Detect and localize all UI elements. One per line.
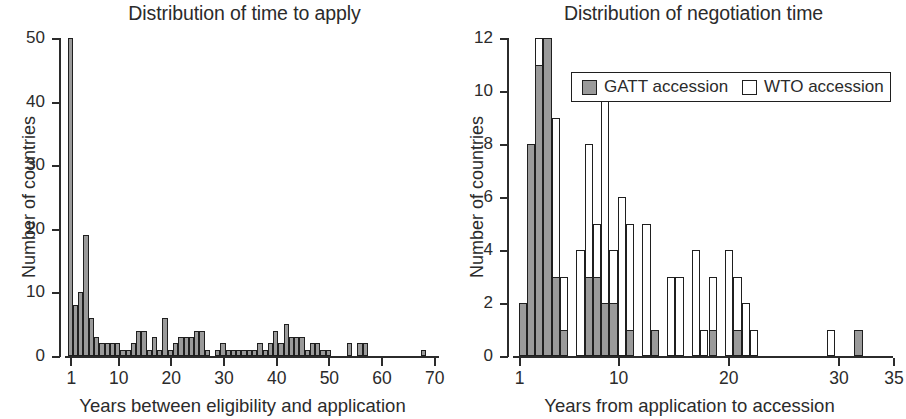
- x-axis-tick: [223, 358, 225, 366]
- histogram-bar: [725, 250, 733, 356]
- histogram-bar: [609, 303, 617, 356]
- y-axis-tick: [52, 165, 60, 167]
- legend-swatch-wto-icon: [742, 80, 757, 95]
- y-axis-tick-label: 40: [11, 92, 45, 112]
- x-axis-tick: [70, 358, 72, 366]
- x-axis-tick-label: 10: [98, 368, 140, 389]
- y-axis-line: [59, 38, 61, 357]
- y-axis-tick-label: 20: [11, 219, 45, 239]
- y-axis-tick: [500, 303, 508, 305]
- histogram-bar: [560, 330, 568, 357]
- histogram-bar: [363, 343, 368, 356]
- y-axis-tick-label: 30: [11, 155, 45, 175]
- chart-panel-negotiation-time: Distribution of negotiation time Number …: [453, 0, 906, 419]
- histogram-bar: [854, 330, 862, 357]
- histogram-bar: [700, 330, 708, 357]
- histogram-bar: [733, 330, 741, 357]
- plot-area-left: 01020304050110203040506070: [65, 38, 439, 356]
- y-axis-tick: [500, 91, 508, 93]
- two-panel-histogram-figure: Distribution of time to apply Number of …: [0, 0, 906, 419]
- chart-panel-time-to-apply: Distribution of time to apply Number of …: [0, 0, 453, 419]
- x-axis-tick-label: 1: [499, 368, 541, 389]
- y-axis-tick-label: 6: [459, 187, 493, 207]
- histogram-bar: [626, 330, 634, 357]
- histogram-bar: [601, 303, 609, 356]
- histogram-bar: [750, 330, 758, 357]
- histogram-bar: [827, 330, 835, 357]
- y-axis-tick: [52, 38, 60, 40]
- histogram-bar: [585, 277, 593, 357]
- histogram-bar: [543, 38, 551, 356]
- y-axis-tick: [52, 292, 60, 294]
- chart-title-right: Distribution of negotiation time: [453, 2, 906, 25]
- x-axis-tick: [838, 358, 840, 366]
- y-axis-tick: [500, 38, 508, 40]
- x-axis-label-left: Years between eligibility and applicatio…: [0, 395, 469, 417]
- x-axis-tick-label: 60: [361, 368, 403, 389]
- x-axis-tick: [170, 358, 172, 366]
- chart-title-left: Distribution of time to apply: [0, 2, 471, 25]
- histogram-bar: [709, 330, 717, 357]
- legend: GATT accession WTO accession: [571, 72, 891, 102]
- x-axis-tick: [434, 358, 436, 366]
- x-axis-tick-label: 20: [708, 368, 750, 389]
- histogram-bar: [535, 65, 543, 357]
- histogram-bar: [642, 224, 650, 357]
- bars-left: [65, 38, 439, 356]
- x-axis-tick: [893, 358, 895, 366]
- x-axis-tick-label: 1: [50, 368, 92, 389]
- y-axis-tick-label: 12: [459, 28, 493, 48]
- y-axis-tick: [500, 144, 508, 146]
- x-axis-tick: [328, 358, 330, 366]
- x-axis-tick-label: 30: [203, 368, 245, 389]
- y-axis-tick: [52, 356, 60, 358]
- x-axis-tick: [728, 358, 730, 366]
- y-axis-tick-label: 4: [459, 240, 493, 260]
- x-axis-tick: [276, 358, 278, 366]
- x-axis-tick-label: 30: [818, 368, 860, 389]
- y-axis-tick: [52, 102, 60, 104]
- histogram-bar: [675, 277, 683, 357]
- x-axis-tick: [618, 358, 620, 366]
- x-axis-tick-label: 70: [414, 368, 456, 389]
- histogram-bar: [519, 303, 527, 356]
- x-axis-tick: [519, 358, 521, 366]
- histogram-bar: [618, 197, 626, 356]
- y-axis-tick-label: 10: [11, 282, 45, 302]
- y-axis-tick-label: 50: [11, 28, 45, 48]
- y-axis-tick: [500, 250, 508, 252]
- y-axis-tick-label: 8: [459, 134, 493, 154]
- y-axis-tick-label: 2: [459, 293, 493, 313]
- x-axis-line: [513, 356, 893, 358]
- x-axis-label-right: Years from application to accession: [453, 395, 906, 417]
- histogram-bar: [593, 277, 601, 357]
- histogram-bar: [527, 144, 535, 356]
- x-axis-tick-label: 50: [308, 368, 350, 389]
- histogram-bar: [651, 330, 659, 357]
- histogram-bar: [347, 343, 352, 356]
- y-axis-tick: [500, 356, 508, 358]
- histogram-bar: [552, 277, 560, 357]
- histogram-bar: [742, 303, 750, 356]
- x-axis-tick: [118, 358, 120, 366]
- histogram-bar: [667, 277, 675, 357]
- x-axis-tick-label: 40: [256, 368, 298, 389]
- legend-entry-gatt: GATT accession: [582, 77, 728, 97]
- x-axis-tick: [381, 358, 383, 366]
- x-axis-tick-label: 20: [150, 368, 192, 389]
- histogram-bar: [692, 250, 700, 356]
- legend-swatch-gatt-icon: [582, 80, 597, 95]
- y-axis-tick-label: 0: [11, 346, 45, 366]
- legend-label-gatt: GATT accession: [604, 77, 728, 97]
- x-axis-tick-label: 35: [873, 368, 906, 389]
- y-axis-tick-label: 10: [459, 81, 493, 101]
- y-axis-tick-label: 0: [459, 346, 493, 366]
- y-axis-tick: [52, 229, 60, 231]
- histogram-bar: [576, 250, 584, 356]
- x-axis-tick-label: 10: [598, 368, 640, 389]
- legend-label-wto: WTO accession: [764, 77, 884, 97]
- legend-entry-wto: WTO accession: [742, 77, 884, 97]
- y-axis-label-left: Number of countries: [19, 116, 40, 278]
- y-axis-tick: [500, 197, 508, 199]
